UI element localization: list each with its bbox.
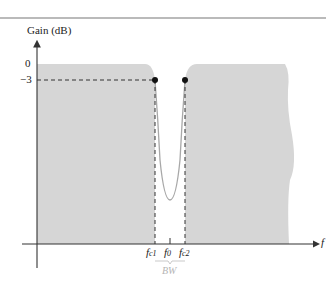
bandwidth-bracket <box>155 261 185 264</box>
y-tick-minus3: −3 <box>20 73 32 85</box>
lower-passband-region <box>37 64 155 244</box>
y-tick-0: 0 <box>25 57 31 69</box>
notch-curve <box>155 80 185 200</box>
bandwidth-label: BW <box>162 265 176 276</box>
fc1-sub: c1 <box>149 249 157 258</box>
upper-passband-region <box>185 64 294 244</box>
fc2-sub: c2 <box>182 249 190 258</box>
f0-sub: 0 <box>167 249 171 258</box>
x-tick-fc1: fc1 <box>146 246 157 258</box>
x-tick-fc2: fc2 <box>179 246 190 258</box>
band-stop-response-diagram: Gain (dB) 0 −3 f fc1 f0 fc2 BW <box>0 0 329 292</box>
y-axis-label: Gain (dB) <box>27 24 71 36</box>
x-axis-label: f <box>321 236 324 248</box>
fc1-point <box>152 77 158 83</box>
fc2-point <box>182 77 188 83</box>
x-tick-f0: f0 <box>164 246 171 258</box>
